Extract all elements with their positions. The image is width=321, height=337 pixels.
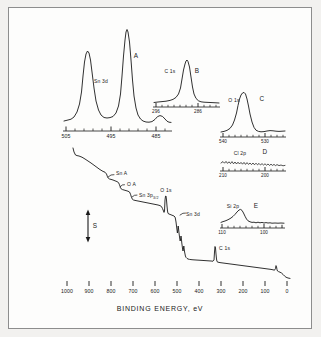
- inset-a-sn3d: 505 495 485 Sn 3d A: [61, 30, 172, 140]
- scale-arrow-head-bottom: [86, 237, 91, 243]
- main-tick-label-800: 800: [106, 288, 115, 294]
- inset-c-o1s: 540 530 O 1s C: [219, 92, 286, 144]
- inset-d-curve: [221, 161, 285, 165]
- inset-b-ticks: [156, 103, 216, 107]
- main-tick-label-400: 400: [194, 288, 203, 294]
- scale-arrow-head-top: [86, 210, 91, 216]
- leader-o-auger: [120, 185, 125, 188]
- inset-b-panel-label: B: [195, 67, 200, 74]
- inset-a-tick-label-2: 485: [151, 133, 160, 139]
- main-label-c1s: C 1s: [219, 245, 230, 251]
- inset-b-curve: [154, 60, 219, 103]
- leader-sn3p: [132, 195, 137, 197]
- main-label-o1s: O 1s: [160, 187, 172, 193]
- inset-c-tick-label-1: 530: [261, 139, 269, 144]
- main-tick-label-900: 900: [84, 288, 93, 294]
- xps-spectrum-plot: 505 495 485 Sn 3d A 296: [0, 0, 321, 337]
- main-axis-ticks: [67, 281, 287, 286]
- inset-d-cl2p: 210 200 Cl 2p D: [219, 148, 286, 178]
- main-label-sn3d: Sn 3d: [186, 211, 200, 217]
- inset-a-tick-label-0: 505: [61, 133, 70, 139]
- main-label-sn3p: Sn 3p3/2: [139, 192, 159, 200]
- inset-c-panel-label: C: [260, 95, 265, 102]
- figure-root: 505 495 485 Sn 3d A 296: [0, 0, 321, 337]
- scale-marker-label: S: [93, 222, 97, 229]
- inset-b-tick-label-0: 296: [152, 109, 160, 114]
- main-label-sn-auger: Sn A: [116, 170, 128, 176]
- main-tick-label-200: 200: [238, 288, 247, 294]
- inset-c-ticks: [223, 133, 283, 137]
- main-label-sn3p-sub: 3/2: [153, 196, 159, 200]
- main-label-sn3p-text: Sn 3p: [139, 192, 153, 198]
- inset-a-ticks: [66, 127, 165, 132]
- main-tick-label-100: 100: [260, 288, 269, 294]
- leader-sn3d-main: [180, 213, 186, 215]
- inset-b-region-label: C 1s: [164, 68, 175, 74]
- inset-e-tick-label-1: 100: [260, 230, 268, 235]
- inset-d-region-label: Cl 2p: [234, 150, 247, 156]
- main-survey-curve: [73, 148, 290, 278]
- inset-e-region-label: Si 2p: [227, 203, 239, 209]
- inset-c-tick-label-0: 540: [219, 139, 227, 144]
- inset-e-si2p: 110 100 Si 2p E: [218, 202, 285, 235]
- inset-e-panel-label: E: [254, 202, 259, 209]
- inset-a-region-label: Sn 3d: [94, 78, 108, 84]
- inset-d-tick-label-1: 200: [261, 173, 269, 178]
- inset-d-ticks: [223, 167, 283, 171]
- inset-b-tick-label-1: 286: [194, 109, 202, 114]
- main-survey-scan: 1000 900 800 700 600 500 400 300 200 100…: [61, 148, 290, 294]
- intensity-scale-marker: S: [86, 210, 97, 243]
- main-tick-label-300: 300: [216, 288, 225, 294]
- inset-e-curve: [221, 209, 284, 223]
- inset-e-ticks: [222, 224, 282, 228]
- main-tick-label-500: 500: [172, 288, 181, 294]
- main-tick-label-600: 600: [150, 288, 159, 294]
- inset-d-tick-label-0: 210: [219, 173, 227, 178]
- inset-e-tick-label-0: 110: [218, 230, 226, 235]
- leader-sn-auger: [108, 175, 114, 178]
- inset-d-panel-label: D: [263, 148, 268, 155]
- inset-a-panel-label: A: [134, 52, 139, 59]
- inset-c-region-label: O 1s: [228, 97, 240, 103]
- inset-b-c1s: 296 286 C 1s B: [152, 60, 220, 114]
- main-tick-label-1000: 1000: [61, 288, 73, 294]
- x-axis-title: BINDING ENERGY, eV: [117, 305, 204, 312]
- main-tick-label-0: 0: [285, 288, 288, 294]
- inset-a-tick-label-1: 495: [106, 133, 115, 139]
- main-label-o-auger: O A: [127, 181, 136, 187]
- main-tick-label-700: 700: [128, 288, 137, 294]
